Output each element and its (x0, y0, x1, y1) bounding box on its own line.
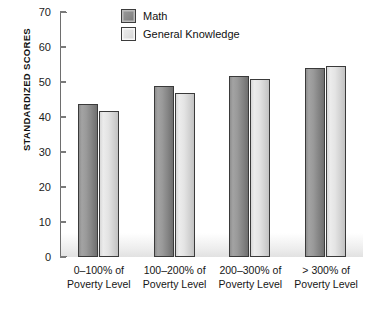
bar-general-knowledge[interactable] (250, 79, 270, 257)
x-axis-label: 200–300% ofPoverty Level (213, 263, 289, 291)
y-tick-label: 10 (39, 216, 51, 228)
x-axis-label-line: Poverty Level (137, 277, 213, 291)
y-tick-label: 70 (39, 6, 51, 18)
bar-math[interactable] (154, 86, 174, 257)
bar-general-knowledge[interactable] (175, 93, 195, 257)
bar-general-knowledge[interactable] (326, 66, 346, 257)
x-axis-label-line: 0–100% of (61, 263, 137, 277)
x-axis-label: 100–200% ofPoverty Level (137, 263, 213, 291)
bar-math[interactable] (305, 68, 325, 257)
y-tick-label: 30 (39, 146, 51, 158)
y-axis-title: STANDARDIZED SCORES (21, 20, 32, 160)
x-axis-label-line: Poverty Level (213, 277, 289, 291)
y-tick-label: 50 (39, 76, 51, 88)
bar-group (212, 12, 288, 257)
x-axis-label-line: Poverty Level (288, 277, 364, 291)
bar-group (61, 12, 137, 257)
bar-group (288, 12, 364, 257)
x-axis-labels: 0–100% ofPoverty Level100–200% ofPoverty… (61, 263, 364, 291)
legend-swatch-general-knowledge-icon (121, 27, 136, 41)
bar-math[interactable] (229, 76, 249, 257)
bar-general-knowledge[interactable] (99, 111, 119, 257)
x-axis-label-line: 200–300% of (213, 263, 289, 277)
x-axis-label-line: 100–200% of (137, 263, 213, 277)
y-tick-label: 40 (39, 111, 51, 123)
legend-item-general-knowledge[interactable]: General Knowledge (121, 25, 240, 43)
x-axis-label: > 300% ofPoverty Level (288, 263, 364, 291)
x-axis-label-line: Poverty Level (61, 277, 137, 291)
x-axis-label: 0–100% ofPoverty Level (61, 263, 137, 291)
legend-item-math[interactable]: Math (121, 7, 240, 25)
bar-groups (61, 12, 363, 257)
y-tick-label: 20 (39, 181, 51, 193)
legend-swatch-math-icon (121, 9, 136, 23)
legend-label-general-knowledge: General Knowledge (143, 28, 240, 40)
bar-math[interactable] (78, 104, 98, 257)
y-tick-label: 0 (45, 251, 51, 263)
bar-chart: STANDARDIZED SCORES 706050403020100 0–10… (0, 0, 371, 311)
y-tick-label: 60 (39, 41, 51, 53)
legend: Math General Knowledge (121, 7, 240, 43)
plot-area: 706050403020100 (60, 12, 363, 257)
x-axis-label-line: > 300% of (288, 263, 364, 277)
legend-label-math: Math (143, 10, 167, 22)
bar-group (137, 12, 213, 257)
